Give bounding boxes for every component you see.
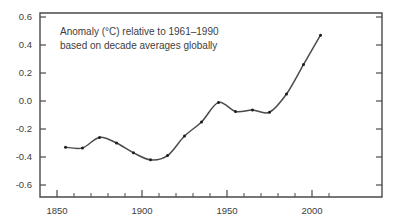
temperature-anomaly-line-chart: 0.60.40.20.0-0.2-0.4-0.6 185019001950200…	[0, 0, 404, 223]
y-tick-label: 0.2	[19, 67, 32, 78]
chart-container: 0.60.40.20.0-0.2-0.4-0.6 185019001950200…	[0, 0, 404, 223]
y-tick-label: -0.4	[16, 151, 32, 162]
x-tick-label: 1900	[131, 205, 152, 216]
data-point-marker	[268, 111, 271, 114]
data-point-marker	[166, 154, 169, 157]
annotation-line: Anomaly (°C) relative to 1961–1990	[60, 26, 219, 37]
y-tick-label: 0.0	[19, 95, 32, 106]
data-point-marker	[81, 146, 84, 149]
data-point-marker	[149, 158, 152, 161]
y-tick-label: 0.6	[19, 11, 32, 22]
annotation-line: based on decade averages globally	[60, 40, 217, 51]
x-tick-label: 1850	[46, 205, 67, 216]
data-point-marker	[302, 63, 305, 66]
data-point-marker	[98, 136, 101, 139]
data-point-marker	[217, 101, 220, 104]
data-point-marker	[64, 146, 67, 149]
y-tick-label: 0.4	[19, 39, 32, 50]
data-point-marker	[115, 142, 118, 145]
data-point-marker	[200, 121, 203, 124]
y-axis-tick-labels: 0.60.40.20.0-0.2-0.4-0.6	[16, 11, 32, 190]
data-point-marker	[183, 135, 186, 138]
data-point-marker	[251, 109, 254, 112]
data-point-marker	[319, 34, 322, 37]
x-tick-label: 2000	[301, 205, 322, 216]
data-point-marker	[285, 93, 288, 96]
x-tick-label: 1950	[216, 205, 237, 216]
x-axis-tick-labels: 1850190019502000	[46, 205, 322, 216]
y-tick-label: -0.2	[16, 123, 32, 134]
data-point-marker	[234, 110, 237, 113]
data-point-marker	[132, 151, 135, 154]
y-tick-label: -0.6	[16, 179, 32, 190]
